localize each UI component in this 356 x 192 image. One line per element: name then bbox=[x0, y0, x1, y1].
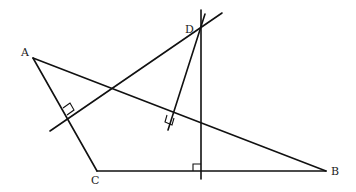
point-label-b: B bbox=[331, 165, 339, 178]
segment-ac bbox=[33, 58, 97, 171]
point-label-d: D bbox=[185, 23, 194, 36]
segment-ab bbox=[33, 58, 326, 171]
point-label-a: A bbox=[20, 46, 30, 59]
line-perpendicular-to-ac bbox=[50, 13, 222, 131]
right-angle-mark-cb bbox=[193, 164, 201, 171]
geometry-figure: A B C D bbox=[0, 0, 356, 192]
point-label-c: C bbox=[91, 174, 99, 187]
